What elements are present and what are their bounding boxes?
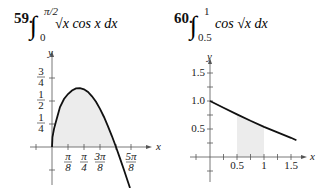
x-axis-label: x [309,150,315,162]
shaded-region [52,88,116,147]
svg-text:0.5: 0.5 [230,159,244,171]
svg-text:0.5: 0.5 [191,122,205,134]
integral-59: ∫ π/2 0 √x cos x dx [28,5,118,43]
x-axis-label: x [155,140,161,152]
svg-text:2: 2 [38,99,44,111]
chart-59: x y π8 π4 3π8 5π8 14 12 34 [30,46,161,188]
svg-text:8: 8 [65,161,71,173]
svg-text:0: 0 [40,31,46,43]
y-axis-label: y [206,50,212,62]
y-axis-label: y [47,46,53,58]
svg-text:cos √x dx: cos √x dx [215,16,269,31]
svg-text:1.0: 1.0 [191,94,205,106]
svg-text:4: 4 [38,122,44,134]
svg-text:√x cos x dx: √x cos x dx [55,16,118,31]
svg-text:1.5: 1.5 [284,159,298,171]
svg-text:8: 8 [128,161,134,173]
integral-60: ∫ 1 0.5 cos √x dx [188,5,269,43]
svg-text:4: 4 [81,161,87,173]
chart-60: x y 0.5 1 1.5 0.5 1.0 1.5 [190,50,315,182]
svg-text:0.5: 0.5 [198,31,212,43]
svg-text:1: 1 [261,159,267,171]
svg-text:8: 8 [97,161,103,173]
svg-text:1.5: 1.5 [191,66,205,78]
svg-text:∫: ∫ [28,11,39,41]
x-axis-arrow-icon [301,155,307,159]
charts: ∫ π/2 0 √x cos x dx ∫ 1 0.5 cos √x dx x … [0,0,321,188]
svg-text:4: 4 [38,76,44,88]
x-axis-arrow-icon [146,145,152,149]
svg-text:1: 1 [204,5,210,17]
